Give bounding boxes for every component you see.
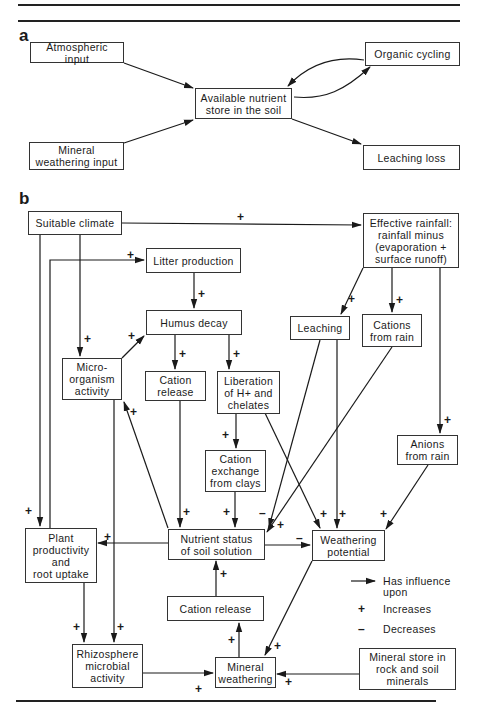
sign-plus: + — [396, 294, 403, 306]
node-suitable-climate: Suitable climate — [28, 211, 122, 235]
sign-plus: + — [84, 333, 91, 345]
sign-plus: + — [223, 506, 230, 518]
node-organic-cycling: Organic cycling — [365, 42, 460, 66]
sign-plus: + — [348, 293, 355, 305]
sign-plus: + — [380, 508, 387, 520]
node-weathering-potential: Weathering potential — [312, 530, 385, 561]
node-available-nutrient-store: Available nutrient store in the soil — [195, 88, 292, 119]
node-cations-from-rain: Cations from rain — [362, 314, 422, 347]
legend-increases: Increases — [383, 604, 431, 615]
sign-plus: + — [274, 640, 281, 652]
node-mineral-store: Mineral store in rock and soil minerals — [359, 648, 456, 690]
sign-plus: + — [320, 508, 327, 520]
node-atmospheric-input: Atmospheric input — [30, 42, 124, 63]
node-micro-organism-activity: Micro- organism activity — [62, 358, 122, 400]
node-leaching-loss: Leaching loss — [363, 145, 460, 170]
node-liberation-h-chelates: Liberation of H+ and chelates — [217, 371, 280, 414]
legend-plus-symbol: + — [358, 603, 365, 615]
node-mineral-weathering-input: Mineral weathering input — [29, 142, 124, 170]
sign-plus: + — [128, 330, 135, 342]
sign-plus: + — [117, 621, 124, 633]
node-plant-productivity: Plant productivity and root uptake — [25, 528, 97, 583]
sign-plus: + — [25, 505, 32, 517]
sign-plus: + — [183, 506, 190, 518]
node-cation-exchange: Cation exchange from clays — [205, 450, 266, 492]
node-anions-from-rain: Anions from rain — [397, 435, 458, 465]
legend-decreases: Decreases — [383, 624, 436, 635]
sign-plus: + — [237, 211, 244, 223]
sign-plus: + — [222, 429, 229, 441]
node-effective-rainfall: Effective rainfall: rainfall minus (evap… — [363, 213, 459, 268]
legend-minus-symbol: – — [358, 623, 365, 635]
sign-plus: + — [233, 348, 240, 360]
node-leaching: Leaching — [290, 316, 350, 340]
sign-plus: + — [198, 288, 205, 300]
sign-plus: + — [127, 249, 134, 261]
sign-plus: + — [195, 683, 202, 695]
panel-label-b: b — [19, 189, 29, 209]
sign-plus: + — [220, 568, 227, 580]
node-mineral-weathering: Mineral weathering — [215, 657, 276, 688]
legend-arrow-text: Has influence upon — [383, 576, 451, 598]
node-rhizosphere-microbial-activity: Rhizosphere microbial activity — [72, 644, 143, 688]
sign-plus: + — [179, 348, 186, 360]
node-nutrient-status: Nutrient status of soil solution — [168, 529, 265, 560]
node-cation-release-upper: Cation release — [145, 371, 206, 401]
sign-plus: + — [73, 621, 80, 633]
node-litter-production: Litter production — [146, 248, 241, 273]
sign-plus: + — [130, 406, 137, 418]
sign-plus: + — [228, 634, 235, 646]
node-humus-decay: Humus decay — [146, 310, 242, 335]
sign-plus: + — [104, 531, 111, 543]
sign-plus: + — [285, 676, 292, 688]
sign-plus: + — [339, 508, 346, 520]
panel-label-a: a — [19, 26, 28, 46]
sign-plus: + — [277, 519, 284, 531]
sign-plus: + — [444, 414, 451, 426]
node-cation-release-lower: Cation release — [167, 596, 264, 621]
sign-minus: – — [259, 507, 266, 519]
sign-minus: – — [296, 532, 303, 544]
